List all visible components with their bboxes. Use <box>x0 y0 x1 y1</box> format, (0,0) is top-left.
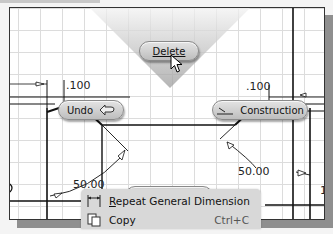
mouse-pointer-icon <box>170 54 184 74</box>
menu-item-text: Copy <box>109 214 136 226</box>
window-edge <box>0 0 100 3</box>
mnemonic: R <box>109 195 116 207</box>
context-menu: Repeat General Dimension Copy Ctrl+C <box>81 189 261 229</box>
menu-item-repeat-general-dimension[interactable]: Repeat General Dimension <box>81 192 261 210</box>
dimension-label-top-left[interactable]: .100 <box>66 79 91 92</box>
menu-item-text: epeat General Dimension <box>116 195 250 207</box>
menu-item-copy[interactable]: Copy Ctrl+C <box>81 211 261 229</box>
menu-item-shortcut: Ctrl+C <box>214 214 249 226</box>
construction-line-icon <box>216 105 234 115</box>
undo-button[interactable]: Undo <box>58 100 124 120</box>
undo-arrow-icon <box>99 104 115 116</box>
construction-label: Construction <box>240 105 304 116</box>
construction-button[interactable]: Construction <box>212 100 308 120</box>
dimension-label-bottom-right[interactable]: 50.00 <box>238 165 270 178</box>
copy-icon <box>83 213 105 227</box>
drop-shadow <box>325 15 333 227</box>
general-dimension-icon <box>83 194 105 208</box>
dimension-label-right-edge[interactable]: 1 <box>320 184 325 197</box>
undo-label: Undo <box>67 105 93 116</box>
delete-button[interactable]: Delete <box>139 41 199 61</box>
dimension-label-top-right[interactable]: .100 <box>246 80 271 93</box>
menu-item-label: Repeat General Dimension <box>109 195 250 207</box>
